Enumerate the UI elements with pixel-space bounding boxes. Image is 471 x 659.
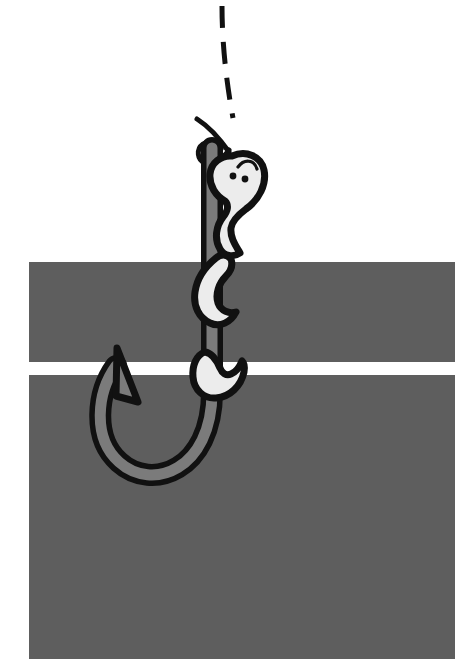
upper-band — [29, 262, 455, 362]
worm-on-hook-illustration — [0, 0, 471, 659]
illustration-canvas — [0, 0, 471, 659]
worm-eye-left — [230, 173, 237, 180]
worm-eye-right — [242, 176, 249, 183]
